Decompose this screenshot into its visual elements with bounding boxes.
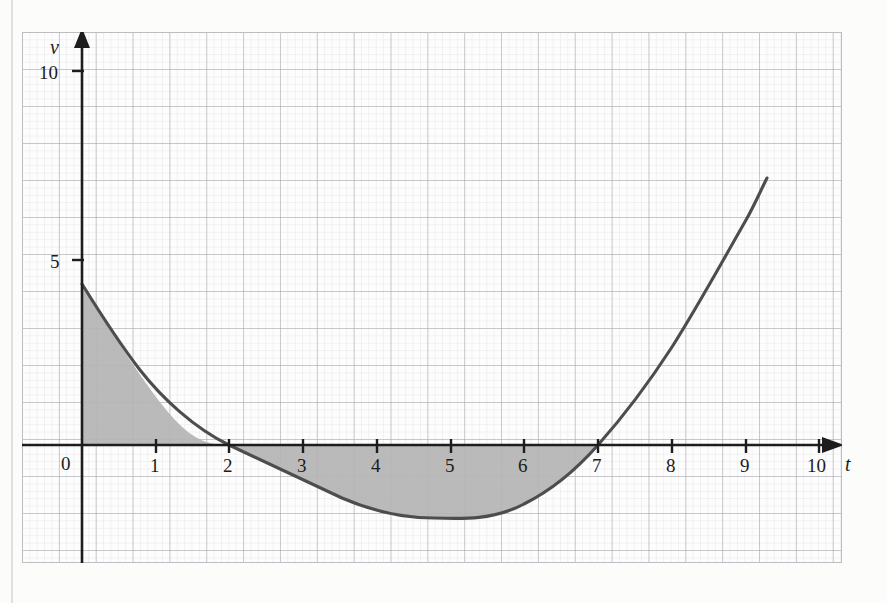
x-tick-label-3: 3 (297, 456, 307, 475)
x-tick-label-1: 1 (150, 456, 160, 475)
graph-paper-area: v t 10 5 0 1 2 3 4 5 6 7 8 9 10 (22, 32, 842, 563)
x-tick-label-6: 6 (518, 456, 528, 475)
x-tick-label-7: 7 (592, 456, 602, 475)
x-tick-label-4: 4 (371, 456, 381, 475)
page-margin-rule (11, 0, 13, 603)
y-tick-label-10: 10 (39, 63, 58, 82)
velocity-time-chart (22, 32, 842, 563)
scanned-page: v t 10 5 0 1 2 3 4 5 6 7 8 9 10 (0, 0, 887, 603)
y-axis-label: v (50, 37, 59, 57)
x-tick-label-0: 0 (61, 454, 71, 473)
y-tick-label-5: 5 (50, 252, 60, 271)
x-tick-label-8: 8 (666, 456, 676, 475)
x-tick-label-2: 2 (223, 456, 233, 475)
x-tick-label-9: 9 (740, 456, 750, 475)
x-tick-label-5: 5 (445, 456, 455, 475)
x-axis-label: t (845, 454, 851, 474)
x-tick-label-10: 10 (807, 456, 826, 475)
